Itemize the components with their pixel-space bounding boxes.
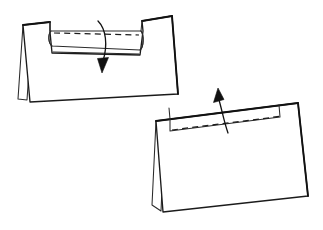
figure-2-flap-left-riser — [169, 108, 170, 119]
figure-1-fold-crease — [54, 33, 139, 35]
diagram-canvas: Paper Folding Instruction Diagram — [0, 0, 323, 230]
figure-1 — [18, 16, 178, 102]
figure-2-front-panel — [156, 103, 308, 212]
figure-1-right-notch-edge — [141, 21, 142, 31]
folding-diagram — [0, 0, 323, 230]
figure-2 — [152, 88, 308, 212]
figure-2-arrow-head-up — [214, 88, 225, 103]
